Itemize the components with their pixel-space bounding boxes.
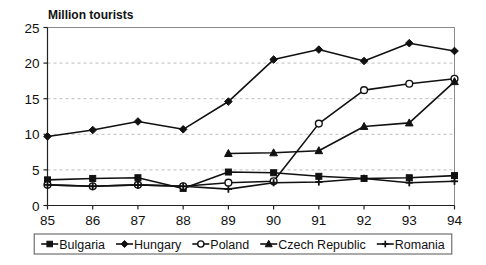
datapoint-bulgaria-90: [271, 170, 277, 176]
x-tick-label-90: 90: [266, 213, 281, 228]
x-tick-label-87: 87: [130, 213, 145, 228]
datapoint-bulgaria-86: [90, 175, 96, 181]
tourists-line-chart: Million tourists 0510152025 858687888990…: [0, 0, 486, 265]
datapoint-bulgaria-89: [225, 169, 231, 175]
chart-container: Million tourists 0510152025 858687888990…: [0, 0, 486, 265]
legend-label: Bulgaria: [59, 238, 105, 252]
y-tick-label-15: 15: [24, 92, 39, 107]
x-tick-label-94: 94: [447, 213, 463, 228]
x-tick-label-86: 86: [85, 213, 100, 228]
x-tick-label-89: 89: [221, 213, 236, 228]
datapoint-poland-92: [361, 87, 368, 94]
chart-legend: BulgariaHungaryPolandCzech RepublicRoman…: [34, 234, 452, 254]
legend-marker-circle-open: [198, 241, 204, 247]
legend-label: Hungary: [134, 238, 182, 252]
y-tick-label-25: 25: [24, 21, 39, 36]
y-tick-label-20: 20: [24, 56, 39, 71]
datapoint-poland-93: [406, 80, 413, 87]
y-tick-label-5: 5: [32, 163, 40, 178]
x-tick-label-91: 91: [311, 213, 326, 228]
legend-label: Romania: [395, 238, 445, 252]
datapoint-bulgaria-87: [135, 175, 141, 181]
x-tick-label-88: 88: [176, 213, 191, 228]
chart-title: Million tourists: [48, 8, 134, 22]
legend-label: Poland: [210, 238, 249, 252]
legend-label: Czech Republic: [278, 238, 366, 252]
x-tick-label-85: 85: [40, 213, 55, 228]
x-tick-label-93: 93: [402, 213, 417, 228]
y-tick-label-0: 0: [32, 199, 40, 214]
x-tick-label-92: 92: [357, 213, 372, 228]
datapoint-poland-91: [315, 120, 322, 127]
legend-marker-square: [47, 241, 53, 247]
datapoint-poland-89: [225, 179, 232, 186]
y-tick-label-10: 10: [24, 127, 39, 142]
